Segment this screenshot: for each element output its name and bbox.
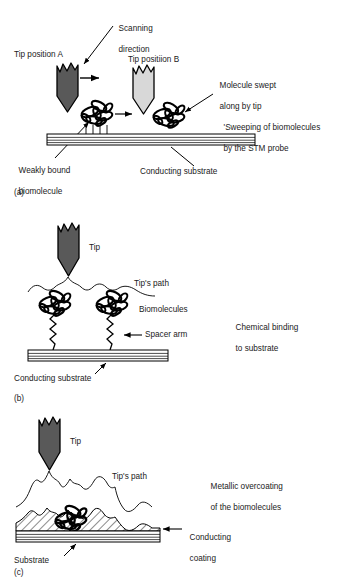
label-tip-b: Tip (89, 243, 100, 253)
label-molecule-swept: Molecule swept along by tip (215, 71, 276, 112)
substrate-c-leader (64, 544, 76, 556)
figure-canvas (0, 0, 353, 579)
scanning-direction-leader (84, 26, 113, 64)
label-biomolecules-b: Biomolecules (139, 305, 188, 315)
swept-biomolecule (152, 101, 186, 130)
molecule-swept-leader (185, 94, 213, 112)
conducting-coating (16, 508, 160, 531)
conducting-substrate-b-leader (95, 363, 106, 374)
label-spacer-arm: Spacer arm (145, 330, 187, 340)
label-tip-position-a: Tip position A (14, 50, 63, 60)
label-scanning-direction: Scanning direction (114, 14, 153, 55)
tip-position-b-shape (133, 65, 154, 114)
conducting-substrate-a-leader (171, 147, 194, 166)
side-note-a: 'Sweeping of biomolecules by the STM pro… (219, 113, 320, 154)
substrate-c (16, 531, 160, 542)
tip-position-a-shape (57, 63, 78, 112)
figure-stm-biomolecules: Scanning direction Tip position A Tip po… (0, 0, 353, 579)
label-substrate-c: Substrate (14, 556, 49, 566)
label-conducting-substrate-a: Conducting substrate (140, 167, 217, 177)
spacer-arm-right (107, 314, 113, 350)
label-conducting-coating: Conducting coating (185, 523, 231, 564)
label-conducting-substrate-b: Conducting substrate (14, 374, 91, 384)
panel-label-b: (b) (14, 394, 24, 403)
side-note-c: Metallic overcoating of the biomolecules (206, 472, 283, 513)
panel-label-c: (c) (14, 568, 24, 577)
weakly-bound-biomolecule (80, 99, 114, 127)
label-tip-position-b: Tip positiion B (128, 55, 179, 65)
label-tips-path-b: Tip's path (134, 279, 169, 289)
tip-b-shape (58, 223, 79, 276)
conducting-substrate-b (28, 350, 168, 361)
label-tips-path-c: Tip's path (112, 472, 147, 482)
panel-c-graphics (16, 417, 182, 556)
biomolecule-left-b (38, 289, 72, 317)
label-tip-c: Tip (70, 437, 81, 447)
spacer-arm-left (50, 314, 56, 350)
tip-c-shape (39, 417, 60, 470)
side-note-b: Chemical binding to substrate (231, 313, 298, 354)
biomolecule-right-b (95, 289, 129, 317)
panel-label-a: (a) (14, 188, 24, 197)
